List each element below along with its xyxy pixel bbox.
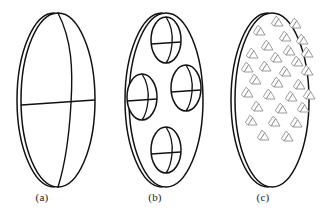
sub-disc-right [171,65,201,111]
panel-a: (a) [0,0,108,216]
disc-face-a [21,13,95,187]
sub-disc-bottom [151,127,181,173]
figure-container: (a) [0,0,326,216]
panel-label-c: (c) [216,190,326,204]
wedge-icon [301,47,313,57]
panel-b-drawing [108,0,216,190]
panel-c: (c) [216,0,326,216]
panel-label-a: (a) [0,190,108,204]
panel-label-b: (b) [108,190,216,204]
wedge-icon [296,34,308,44]
panel-b: (b) [108,0,216,216]
sub-disc-left [127,74,157,120]
sub-disc-top [151,17,181,63]
wedge-icon [289,18,301,28]
panel-c-drawing [216,0,326,190]
panel-a-drawing [0,0,108,190]
